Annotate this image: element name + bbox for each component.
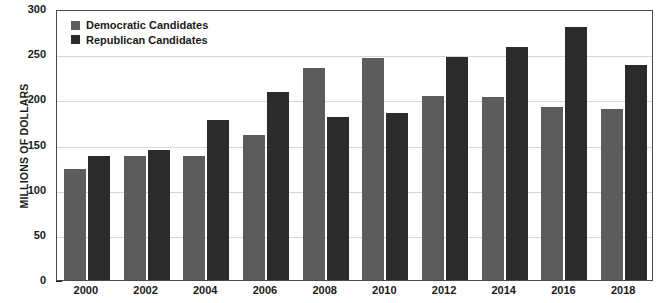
x-axis-tick-label: 2004 [175,285,235,296]
y-axis-tick-label: 200 [12,94,46,105]
bar-republican-2000 [88,156,110,280]
bar-republican-2014 [506,47,528,280]
legend-item-republican: Republican Candidates [71,34,208,47]
x-axis-tick-label: 2002 [116,285,176,296]
bar-group [176,11,236,280]
bar-republican-2006 [267,92,289,280]
x-axis-tick-label: 2016 [534,285,594,296]
y-axis-tick-label: 300 [12,4,46,15]
bar-democratic-2008 [303,68,325,280]
bar-republican-2008 [327,117,349,281]
x-axis-tick-label: 2000 [56,285,116,296]
bar-republican-2012 [446,57,468,280]
bar-democratic-2002 [124,156,146,280]
legend-item-democratic: Democratic Candidates [71,19,208,32]
y-axis-tick-label: 50 [12,230,46,241]
legend-label-republican: Republican Candidates [86,34,208,47]
bar-group [535,11,595,280]
y-axis-tick-mark [56,281,62,282]
legend-swatch-icon-democratic [71,21,80,30]
bars-layer [57,11,652,280]
bar-group [296,11,356,280]
clipped-title-strip [0,0,662,9]
bar-republican-2016 [565,27,587,280]
bar-republican-2002 [148,150,170,280]
bar-democratic-2000 [64,169,86,280]
bar-democratic-2018 [601,109,623,280]
plot-area: Democratic Candidates Republican Candida… [56,10,653,281]
bar-group [415,11,475,280]
legend: Democratic Candidates Republican Candida… [71,19,208,48]
bar-group [57,11,117,280]
x-axis-tick-label: 2012 [414,285,474,296]
y-axis-tick-label: 150 [12,140,46,151]
bar-group [236,11,296,280]
bar-democratic-2004 [183,156,205,280]
bar-group [594,11,654,280]
bar-democratic-2010 [362,58,384,280]
bar-republican-2018 [625,65,647,280]
bar-chart: MILLIONS OF DOLLARS 300250200150100500 D… [0,0,662,303]
y-axis-tick-label: 250 [12,49,46,60]
x-axis-tick-label: 2018 [593,285,653,296]
bar-group [117,11,177,280]
bar-democratic-2016 [541,107,563,280]
y-axis-tick-labels: 300250200150100500 [8,0,46,303]
x-axis-tick-label: 2008 [295,285,355,296]
bar-republican-2004 [207,120,229,280]
bar-democratic-2006 [243,135,265,280]
bar-group [475,11,535,280]
bar-democratic-2014 [482,97,504,280]
bar-group [356,11,416,280]
x-axis-tick-label: 2014 [474,285,534,296]
y-axis-tick-label: 0 [12,275,46,286]
bar-democratic-2012 [422,96,444,280]
legend-label-democratic: Democratic Candidates [86,19,208,32]
x-axis-tick-labels: 2000200220042006200820102012201420162018 [56,285,653,303]
x-axis-tick-label: 2010 [355,285,415,296]
x-axis-tick-label: 2006 [235,285,295,296]
bar-republican-2010 [386,113,408,280]
legend-swatch-icon-republican [71,35,80,44]
y-axis-tick-label: 100 [12,185,46,196]
